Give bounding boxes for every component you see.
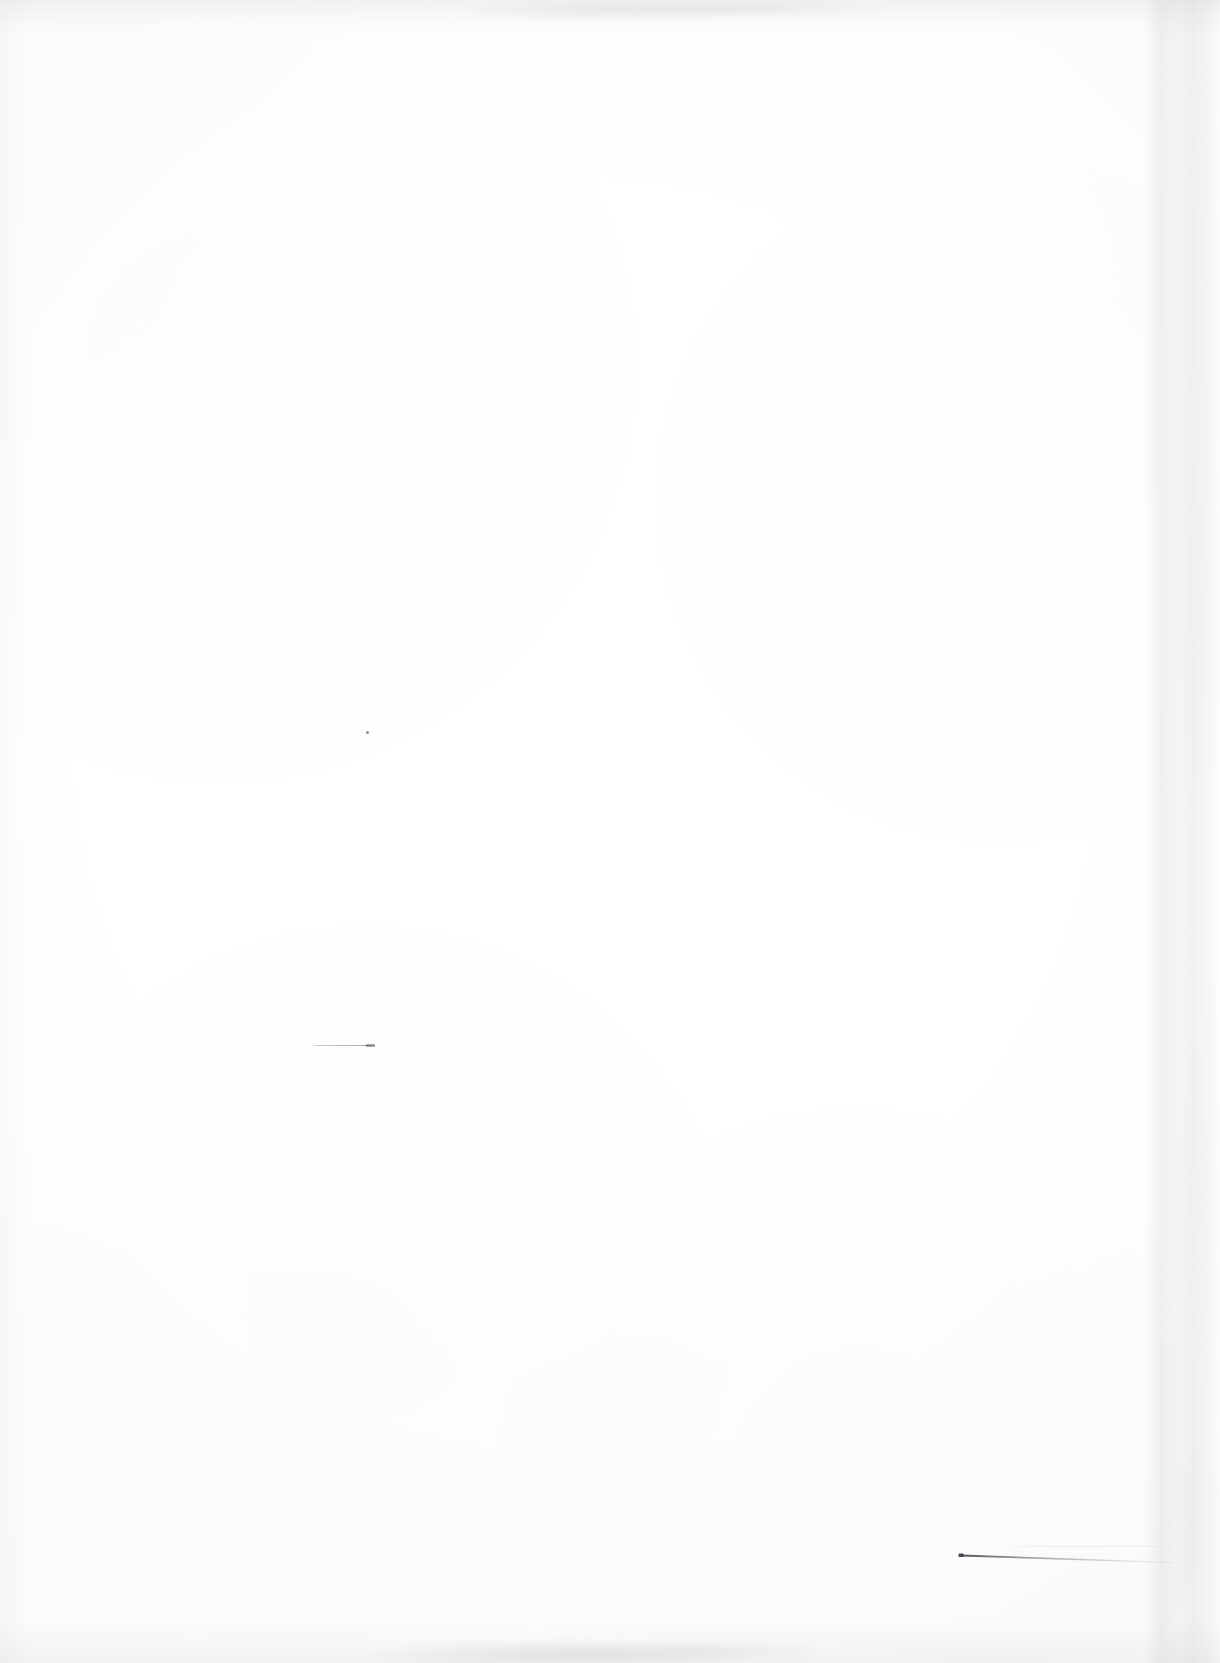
paper-background bbox=[0, 0, 1220, 1663]
short-stroke-tick bbox=[366, 1044, 375, 1046]
long-line-hairline bbox=[1000, 1546, 1180, 1547]
scanned-page bbox=[0, 0, 1220, 1663]
short-stroke-mark bbox=[313, 1044, 375, 1047]
speck-mark bbox=[366, 731, 369, 734]
